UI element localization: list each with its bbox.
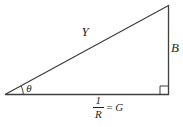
triangle-figure — [0, 0, 183, 127]
right-angle-marker — [160, 86, 169, 95]
angle-label: θ — [26, 83, 31, 94]
conductance-label: G — [115, 102, 123, 113]
equals-sign: = — [106, 102, 113, 113]
vertical-side-label: B — [171, 41, 179, 54]
fraction-numerator: 1 — [94, 95, 104, 107]
hypotenuse-label: Y — [81, 25, 88, 38]
fraction-denominator: R — [93, 108, 104, 120]
angle-arc — [21, 86, 23, 95]
base-label: 1 R = G — [93, 95, 123, 120]
triangle-diagram: Y B θ 1 R = G — [0, 0, 183, 127]
fraction: 1 R — [93, 95, 104, 120]
